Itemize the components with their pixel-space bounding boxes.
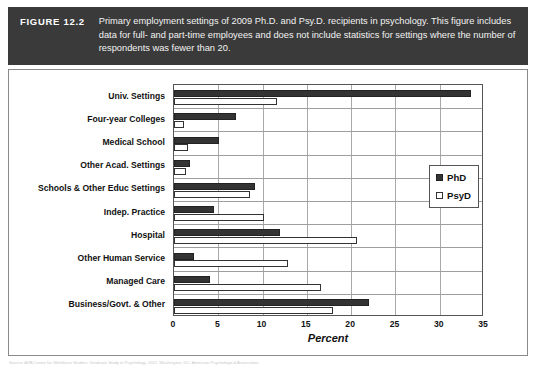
row-separator xyxy=(174,108,482,109)
row-separator xyxy=(174,271,482,272)
bar-phd xyxy=(174,137,219,144)
bar-psyd xyxy=(174,191,250,198)
category-label: Other Acad. Settings xyxy=(80,160,165,170)
source-note: Source: APA Center for Workforce Studies… xyxy=(9,360,529,366)
bar-psyd xyxy=(174,121,184,128)
category-label: Indep. Practice xyxy=(104,207,165,217)
bar-phd xyxy=(174,160,190,167)
row-separator xyxy=(174,155,482,156)
x-tick-label: 5 xyxy=(215,319,220,329)
figure-number-label: FIGURE 12.2 xyxy=(20,15,85,27)
chart-legend: PhD PsyD xyxy=(429,165,479,208)
row-separator xyxy=(174,294,482,295)
legend-label-psyd: PsyD xyxy=(447,189,471,202)
x-axis-title: Percent xyxy=(173,332,483,344)
x-tick-label: 15 xyxy=(301,319,311,329)
bar-psyd xyxy=(174,260,288,267)
bar-psyd xyxy=(174,237,357,244)
bar-psyd xyxy=(174,284,321,291)
x-tick-label: 25 xyxy=(390,319,400,329)
chart-frame: Univ. SettingsFour-year CollegesMedical … xyxy=(8,69,528,356)
row-separator xyxy=(174,131,482,132)
bar-psyd xyxy=(174,307,333,314)
category-label: Medical School xyxy=(102,137,165,147)
x-tick-label: 30 xyxy=(434,319,444,329)
bar-phd xyxy=(174,229,280,236)
bar-phd xyxy=(174,299,369,306)
category-label: Business/Govt. & Other xyxy=(69,299,165,309)
bar-phd xyxy=(174,253,194,260)
bar-psyd xyxy=(174,144,188,151)
row-separator xyxy=(174,224,482,225)
bar-phd xyxy=(174,113,236,120)
x-tick-label: 35 xyxy=(478,319,488,329)
category-label: Hospital xyxy=(131,230,165,240)
bar-psyd xyxy=(174,168,186,175)
figure-caption-text: Primary employment settings of 2009 Ph.D… xyxy=(99,15,518,56)
bar-psyd xyxy=(174,98,277,105)
category-label: Managed Care xyxy=(106,276,165,286)
figure-caption-banner: FIGURE 12.2 Primary employment settings … xyxy=(8,7,528,65)
x-tick-label: 20 xyxy=(345,319,355,329)
bar-phd xyxy=(174,90,471,97)
category-label: Other Human Service xyxy=(78,253,165,263)
bar-phd xyxy=(174,183,255,190)
bar-phd xyxy=(174,206,214,213)
category-label: Schools & Other Educ Settings xyxy=(38,183,165,193)
row-separator xyxy=(174,247,482,248)
bar-phd xyxy=(174,276,210,283)
figure-root: FIGURE 12.2 Primary employment settings … xyxy=(0,0,536,371)
legend-swatch-filled-icon xyxy=(436,174,443,181)
x-tick-label: 0 xyxy=(171,319,176,329)
legend-label-phd: PhD xyxy=(447,171,466,184)
category-label: Four-year Colleges xyxy=(87,114,165,124)
legend-item-phd: PhD xyxy=(436,171,471,184)
x-axis-tick-labels: 05101520253035 xyxy=(173,319,483,333)
legend-item-psyd: PsyD xyxy=(436,189,471,202)
category-axis-labels: Univ. SettingsFour-year CollegesMedical … xyxy=(9,84,169,316)
bar-psyd xyxy=(174,214,264,221)
x-tick-label: 10 xyxy=(257,319,267,329)
legend-swatch-open-icon xyxy=(436,192,443,199)
category-label: Univ. Settings xyxy=(108,91,165,101)
